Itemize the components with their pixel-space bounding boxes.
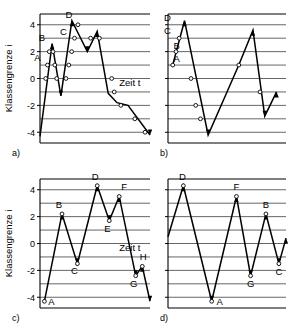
crossing-marker <box>76 23 80 27</box>
x-axis-title: Zeit t <box>119 77 140 88</box>
crossing-marker <box>264 212 268 216</box>
point-label-B: B <box>174 40 180 51</box>
point-label-A: A <box>216 296 223 307</box>
point-label-A: A <box>34 52 41 63</box>
point-label-F: F <box>234 181 240 192</box>
panel-caption-b: b) <box>160 148 168 158</box>
crossing-marker <box>70 50 74 54</box>
y-tick-label: -2 <box>27 266 35 276</box>
crossing-marker <box>119 103 123 107</box>
crossing-marker <box>73 36 77 40</box>
y-axis-ticks: 420-2-4 <box>27 185 40 302</box>
panel-c: 420-2-4Klassengrenze iZeit tABCDEFGHc) <box>0 165 155 330</box>
panel-caption-c: c) <box>12 313 20 323</box>
y-axis-title: Klassengrenze i <box>3 45 14 113</box>
panel-a: 420-2-4Klassengrenze iZeit tABCDa) <box>0 0 155 165</box>
point-label-D: D <box>179 171 186 182</box>
crossing-marker <box>51 50 55 54</box>
y-tick-label: 0 <box>30 74 35 84</box>
y-tick-label: 4 <box>30 20 35 30</box>
crossing-marker <box>47 50 51 54</box>
crossing-marker <box>53 63 57 67</box>
point-label-A: A <box>174 53 181 64</box>
y-tick-label: -4 <box>27 128 35 138</box>
point-label-B: B <box>39 32 45 43</box>
point-label-C: C <box>275 266 282 277</box>
gridlines <box>168 25 286 133</box>
y-tick-label: 0 <box>30 239 35 249</box>
y-tick-label: -4 <box>27 293 35 303</box>
point-label-D: D <box>65 9 72 20</box>
crossing-marker <box>110 77 114 81</box>
crossing-marker <box>112 90 116 94</box>
panel-caption-a: a) <box>12 148 20 158</box>
crossing-marker <box>64 77 68 81</box>
point-label-E: E <box>104 223 110 234</box>
crossing-marker <box>55 77 59 81</box>
y-tick-label: -2 <box>27 101 35 111</box>
crossing-marker <box>258 90 262 94</box>
crossing-marker <box>235 195 239 199</box>
rainflow-counting-figure: 420-2-4Klassengrenze iZeit tABCDa)ABCDb)… <box>0 0 307 330</box>
crossing-marker <box>199 117 203 121</box>
point-label-H: H <box>140 251 147 262</box>
crossing-marker <box>98 36 102 40</box>
crossing-marker <box>133 117 137 121</box>
crossing-marker <box>140 264 144 268</box>
point-labels: DAFGBC <box>179 171 283 308</box>
crossing-marker <box>210 299 214 303</box>
crossing-marker <box>189 77 193 81</box>
crossing-marker <box>117 195 121 199</box>
point-label-B: B <box>56 199 62 210</box>
crossing-marker <box>95 184 99 188</box>
crossing-marker <box>181 184 185 188</box>
panel-b: ABCDb) <box>155 0 307 165</box>
point-label-G: G <box>130 278 137 289</box>
crossing-marker <box>44 77 48 81</box>
point-label-D: D <box>164 12 171 23</box>
point-label-B: B <box>263 199 269 210</box>
crossing-marker <box>237 63 241 67</box>
crossing-marker <box>89 36 93 40</box>
point-label-C: C <box>60 26 67 37</box>
crossing-marker <box>46 63 50 67</box>
crossing-marker <box>67 63 71 67</box>
point-label-D: D <box>92 171 99 182</box>
crossing-marker <box>143 130 147 134</box>
panel-caption-d: d) <box>160 313 168 323</box>
point-label-F: F <box>121 181 127 192</box>
y-axis-title: Klassengrenze i <box>3 210 14 278</box>
point-label-G: G <box>247 278 254 289</box>
y-tick-label: 4 <box>30 185 35 195</box>
point-label-C: C <box>164 25 171 36</box>
crossing-marker <box>194 103 198 107</box>
crossing-marker <box>60 212 64 216</box>
panel-d: DAFGBCd) <box>155 165 307 330</box>
y-tick-label: 2 <box>30 212 35 222</box>
point-label-C: C <box>71 265 78 276</box>
point-label-A: A <box>48 296 55 307</box>
crossing-marker <box>43 299 47 303</box>
